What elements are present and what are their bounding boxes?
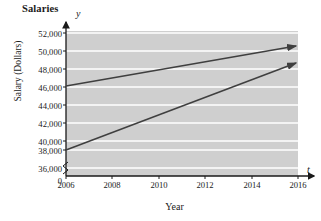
plot-background [66,31,298,176]
salaries-chart: Salaries Salary (Dollars) y t 52,000 50,… [0,0,321,221]
plot-area-svg [0,0,321,221]
